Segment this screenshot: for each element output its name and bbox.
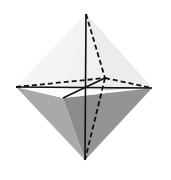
octahedron-diagram (0, 0, 171, 180)
